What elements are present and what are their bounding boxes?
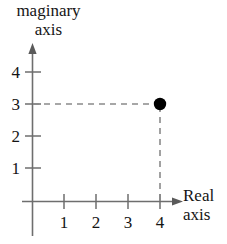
y-tick-label-4: 4 <box>6 64 20 81</box>
imaginary-axis-label-line1: maginary <box>16 1 80 20</box>
complex-plane-figure: maginary axis Real axis 4 3 2 1 1 2 3 4 <box>0 0 227 244</box>
real-axis-label-line1: Real <box>183 186 214 205</box>
y-axis-arrowhead <box>28 43 36 54</box>
imaginary-axis-label: maginary axis <box>0 1 101 39</box>
y-tick-label-1: 1 <box>6 160 20 177</box>
y-tick-label-3: 3 <box>6 96 20 113</box>
data-point-4-3 <box>154 98 166 110</box>
real-axis-label-line2: axis <box>183 205 214 224</box>
x-tick-label-1: 1 <box>56 214 72 231</box>
y-tick-label-2: 2 <box>6 128 20 145</box>
x-tick-label-2: 2 <box>88 214 104 231</box>
x-axis-arrowhead <box>172 197 183 205</box>
real-axis-label: Real axis <box>183 186 214 224</box>
x-tick-label-3: 3 <box>120 214 136 231</box>
imaginary-axis-label-line2: axis <box>0 20 101 39</box>
x-tick-label-4: 4 <box>152 214 168 231</box>
